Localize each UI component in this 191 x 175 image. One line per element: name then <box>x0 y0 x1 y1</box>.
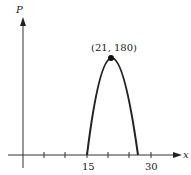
vertex-point <box>108 55 114 61</box>
parabola-plot: (21, 180) 15 30 x P <box>0 0 191 175</box>
tick-label-30: 30 <box>145 161 158 172</box>
y-axis-arrow-icon <box>20 17 26 26</box>
vertex-label: (21, 180) <box>91 42 137 53</box>
chart: (21, 180) 15 30 x P <box>0 0 191 175</box>
x-axis-label: x <box>183 149 189 160</box>
tick-label-15: 15 <box>82 161 95 172</box>
x-axis-arrow-icon <box>173 152 182 158</box>
parabola-curve <box>87 58 138 155</box>
y-axis-label: P <box>15 4 23 15</box>
